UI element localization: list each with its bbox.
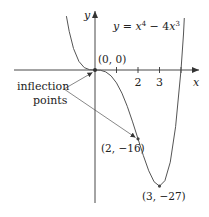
point-origin	[93, 68, 97, 72]
point-label-inflection: (2, −16)	[101, 142, 145, 154]
x-axis-label: x	[193, 76, 200, 89]
annotation-line1: inflection	[17, 80, 69, 93]
tick-label-2: 2	[135, 76, 142, 89]
annotation-line2: points	[33, 94, 68, 107]
tick-label-3: 3	[156, 76, 163, 89]
point-minimum	[158, 185, 161, 188]
function-curve	[66, 16, 184, 186]
graph-figure: y x 2 3 y = x4 − 4x3 (0, 0) (2, −16) (3,…	[0, 0, 209, 217]
point-label-origin: (0, 0)	[98, 53, 126, 65]
point-label-minimum: (3, −27)	[142, 190, 186, 202]
graph-svg: y x 2 3 y = x4 − 4x3 (0, 0) (2, −16) (3,…	[0, 0, 209, 217]
point-inflection-2	[136, 137, 139, 140]
y-axis-label: y	[83, 9, 91, 22]
annotation-arrow-inflection	[64, 89, 136, 138]
equation-label: y = x4 − 4x3	[112, 20, 180, 33]
